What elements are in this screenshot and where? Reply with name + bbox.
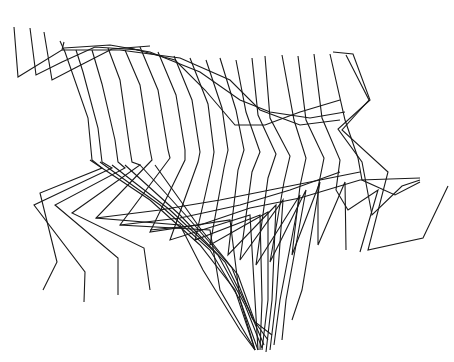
line-drawing-canvas — [0, 0, 454, 362]
motion-trace-figure — [0, 0, 454, 362]
